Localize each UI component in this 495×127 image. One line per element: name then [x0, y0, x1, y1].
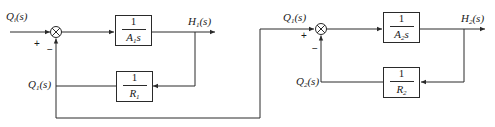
block-denominator: R1	[129, 86, 139, 101]
block-numerator: 1	[399, 68, 405, 81]
signal-label-q2-feedback: Q2(s)	[296, 76, 319, 89]
transfer-block-1-over-r2: 1 R2	[383, 67, 420, 98]
transfer-block-1-over-a2s: 1 A2s	[383, 12, 420, 43]
sum2-minus-sign: −	[312, 44, 318, 54]
block-numerator: 1	[131, 16, 137, 29]
signal-label-qi: Qi(s)	[6, 11, 28, 24]
block-diagram: Qi(s) H1(s) Q1(s) Q1(s) H2(s) Q2(s) + − …	[0, 0, 495, 127]
transfer-block-1-over-a1s: 1 A1s	[115, 15, 152, 46]
sum1-plus-sign: +	[34, 39, 40, 49]
signal-lines	[0, 0, 495, 127]
sum2-plus-sign: +	[301, 31, 307, 41]
signal-label-h1: H1(s)	[188, 16, 211, 29]
block-numerator: 1	[399, 13, 405, 26]
signal-label-q1-stage2: Q1(s)	[283, 12, 306, 25]
block-denominator: A1s	[126, 30, 141, 45]
sum1-minus-sign: −	[47, 45, 53, 55]
block-denominator: A2s	[394, 27, 409, 42]
block-numerator: 1	[132, 72, 138, 85]
signal-label-q1-feedback: Q1(s)	[28, 79, 51, 92]
block-denominator: R2	[396, 82, 406, 97]
signal-label-h2: H2(s)	[461, 13, 484, 26]
transfer-block-1-over-r1: 1 R1	[116, 71, 153, 102]
